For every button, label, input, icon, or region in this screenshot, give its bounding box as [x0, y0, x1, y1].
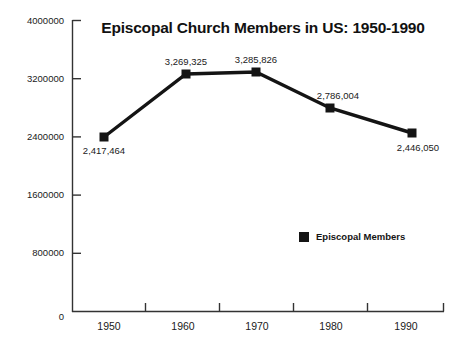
x-tick-label-1950: 1950: [79, 320, 139, 332]
legend-label-episcopal-members: Episcopal Members: [316, 231, 405, 242]
y-tick-label-0: 0: [0, 311, 64, 322]
series-line-episcopal-members: [104, 72, 412, 137]
data-label-1990: 2,446,050: [383, 142, 453, 153]
data-point-1970: [252, 68, 261, 77]
x-tick-label-1990: 1990: [376, 320, 436, 332]
y-tick-label-1600000: 1600000: [0, 189, 64, 200]
data-point-1980: [326, 104, 335, 113]
x-tick-label-1960: 1960: [153, 320, 213, 332]
x-tick-label-1980: 1980: [301, 320, 361, 332]
data-label-1960: 3,269,325: [151, 56, 221, 67]
y-tick-label-3200000: 3200000: [0, 73, 64, 84]
y-tick-label-800000: 800000: [0, 247, 64, 258]
x-tick-label-1970: 1970: [227, 320, 287, 332]
data-label-1970: 3,285,826: [221, 54, 291, 65]
data-label-1980: 2,786,004: [303, 90, 373, 101]
y-axis-ticks: [73, 21, 82, 254]
data-point-1950: [100, 133, 109, 142]
chart-legend: Episcopal Members: [299, 231, 405, 242]
chart-figure: Episcopal Church Members in US: 1950-199…: [0, 0, 464, 358]
y-tick-label-4000000: 4000000: [0, 15, 64, 26]
x-axis-ticks: [146, 303, 444, 312]
data-point-1960: [182, 70, 191, 79]
data-point-1990: [408, 129, 417, 138]
y-tick-label-2400000: 2400000: [0, 131, 64, 142]
data-label-1950: 2,417,464: [69, 145, 139, 156]
legend-swatch-icon: [299, 232, 309, 242]
